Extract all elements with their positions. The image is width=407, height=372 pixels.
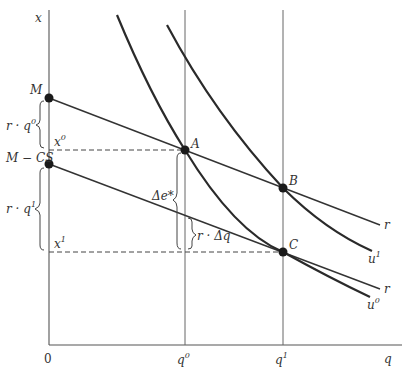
label-C: C <box>289 238 298 252</box>
point-C <box>279 248 288 257</box>
y-axis-label: x <box>35 11 42 25</box>
label-r-upper: r <box>384 218 391 232</box>
label-delta-e: Δe* <box>151 189 174 203</box>
label-B: B <box>288 174 298 188</box>
brace-r-delta-q <box>188 218 196 249</box>
label-x1: x1 <box>54 235 66 251</box>
label-x0: x0 <box>54 133 66 149</box>
label-r-q1: r · q1 <box>6 200 36 216</box>
indifference-curve-u0 <box>117 15 370 297</box>
label-M: M <box>29 83 43 97</box>
label-M-CS: M − CS <box>5 151 53 165</box>
brace-delta-e <box>173 153 181 249</box>
point-B <box>279 184 288 193</box>
label-r-lower: r <box>384 282 391 296</box>
x-axis-label: q <box>384 352 392 366</box>
tick-q1: q1 <box>275 351 288 367</box>
diagram-canvas: x q 0 q0 q1 M M − CS x0 x1 A B C r r u1 … <box>0 0 407 372</box>
origin-label: 0 <box>44 352 52 366</box>
label-r-delta-q: r · Δq <box>197 229 231 243</box>
label-r-q0: r · q0 <box>6 117 36 133</box>
brace-r-q1 <box>35 168 44 250</box>
label-u0: u0 <box>367 296 380 312</box>
brace-r-q0 <box>36 101 44 148</box>
label-u1: u1 <box>368 250 381 266</box>
point-M <box>45 94 54 103</box>
tick-q0: q0 <box>177 351 190 367</box>
budget-line-upper <box>49 98 380 225</box>
label-A: A <box>190 137 200 151</box>
point-A <box>181 146 190 155</box>
